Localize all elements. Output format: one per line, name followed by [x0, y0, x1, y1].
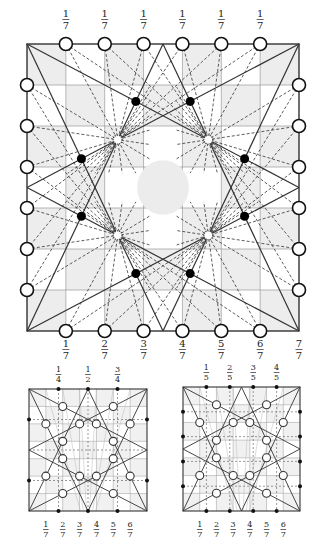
open-circle: [76, 472, 84, 480]
fraction-label: 17: [43, 520, 49, 539]
fraction-denominator: 7: [102, 350, 108, 361]
shade-cell: [283, 493, 300, 511]
fraction-denominator: 7: [197, 530, 202, 539]
edge-circle: [21, 284, 34, 297]
fraction-denominator: 7: [214, 530, 219, 539]
black-dot: [240, 212, 249, 221]
edge-circle: [293, 202, 306, 215]
fraction-numerator: 2: [227, 363, 232, 372]
fraction-denominator: 7: [231, 530, 236, 539]
fraction-label: 67: [127, 520, 133, 539]
fraction-denominator: 7: [257, 20, 263, 31]
fraction-label: 17: [218, 8, 225, 31]
edge-dot: [181, 484, 185, 488]
fraction-numerator: 4: [94, 520, 99, 529]
edge-dot: [181, 435, 185, 439]
fraction-label: 27: [101, 338, 108, 361]
fraction-label: 17: [179, 8, 186, 31]
fraction-numerator: 1: [204, 363, 209, 372]
edge-dot: [145, 479, 149, 483]
fraction-denominator: 7: [63, 350, 69, 361]
open-circle: [196, 418, 204, 426]
fraction-denominator: 7: [102, 20, 108, 31]
edge-circle: [21, 120, 34, 133]
edge-dot: [116, 387, 120, 391]
fraction-label: 37: [140, 338, 147, 361]
fraction-label: 17: [62, 8, 69, 31]
open-circle: [92, 472, 100, 480]
edge-dot: [298, 484, 302, 488]
fraction-numerator: 1: [102, 8, 108, 19]
fraction-numerator: 5: [218, 338, 224, 349]
edge-dot: [298, 410, 302, 414]
fraction-denominator: 7: [111, 530, 116, 539]
open-circle: [229, 418, 237, 426]
fraction-denominator: 5: [227, 373, 232, 382]
fraction-denominator: 7: [94, 530, 99, 539]
fraction-numerator: 6: [281, 520, 286, 529]
fraction-label: 12: [85, 365, 91, 384]
fraction-denominator: 7: [179, 350, 185, 361]
right-small-diagram: 15253545172737475767: [181, 363, 302, 539]
fraction-numerator: 1: [257, 8, 263, 19]
fraction-numerator: 6: [128, 520, 133, 529]
fraction-label: 17: [101, 8, 108, 31]
open-circle: [263, 436, 271, 444]
fraction-label: 67: [257, 338, 264, 361]
open-circle: [126, 420, 134, 428]
fraction-denominator: 7: [257, 350, 263, 361]
open-circle: [246, 472, 254, 480]
fraction-denominator: 7: [247, 530, 252, 539]
edge-dot: [298, 459, 302, 463]
edge-circle: [176, 38, 189, 51]
shade-cell: [144, 249, 183, 290]
open-circle: [263, 401, 271, 409]
shade-cell: [27, 44, 66, 85]
fraction-label: 67: [280, 520, 286, 539]
fraction-label: 45: [274, 363, 280, 382]
open-circle: [212, 436, 220, 444]
fraction-numerator: 1: [63, 338, 69, 349]
fraction-label: 37: [77, 520, 83, 539]
fraction-label: 17: [140, 8, 147, 31]
edge-dot: [27, 418, 31, 422]
hatched-circle: [204, 231, 213, 240]
open-circle: [92, 420, 100, 428]
hatched-circle: [113, 231, 122, 240]
black-dot: [131, 97, 140, 106]
fraction-denominator: 7: [140, 20, 146, 31]
open-circle: [59, 455, 67, 463]
black-dot: [186, 269, 195, 278]
fraction-label: 17: [62, 338, 69, 361]
fraction-denominator: 4: [56, 375, 61, 384]
shade-cell: [66, 167, 105, 208]
fraction-numerator: 7: [296, 338, 302, 349]
fraction-numerator: 1: [197, 520, 202, 529]
shade-cell: [260, 290, 299, 331]
edge-circle: [254, 325, 267, 338]
open-circle: [246, 418, 254, 426]
open-circle: [109, 490, 117, 498]
edge-circle: [21, 243, 34, 256]
fraction-denominator: 5: [251, 373, 256, 382]
open-circle: [279, 418, 287, 426]
fraction-denominator: 7: [218, 20, 224, 31]
fraction-numerator: 5: [111, 520, 116, 529]
open-circle: [42, 472, 50, 480]
fraction-label: 27: [214, 520, 220, 539]
fraction-label: 57: [218, 338, 225, 361]
center-shaded-circle: [137, 160, 189, 215]
fraction-numerator: 3: [140, 338, 146, 349]
black-dot: [77, 154, 86, 163]
edge-circle: [98, 325, 111, 338]
edge-circle: [293, 79, 306, 92]
edge-dot: [204, 509, 208, 513]
fraction-denominator: 7: [281, 530, 286, 539]
left-small-diagram: 141234172737475767: [27, 365, 149, 539]
fraction-numerator: 3: [231, 520, 236, 529]
edge-dot: [228, 385, 232, 389]
fraction-numerator: 2: [102, 338, 108, 349]
open-circle: [212, 401, 220, 409]
fraction-numerator: 4: [179, 338, 185, 349]
fraction-numerator: 1: [56, 365, 61, 374]
